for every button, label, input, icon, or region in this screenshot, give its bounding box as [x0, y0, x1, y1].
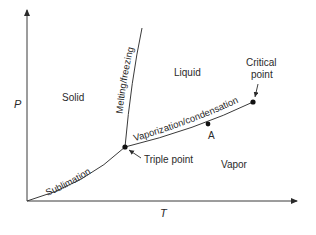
- critical-point-marker: [250, 99, 255, 104]
- vapor-region-label: Vapor: [221, 159, 248, 170]
- phase-diagram: P T Sublimation Vaporization/condensatio…: [0, 0, 316, 235]
- liquid-region-label: Liquid: [174, 67, 201, 78]
- critical-point-label-line1: Critical: [246, 57, 277, 68]
- sublimation-label: Sublimation: [44, 165, 93, 198]
- vaporization-label: Vaporization/condensation: [132, 94, 240, 143]
- triple-point-marker: [122, 144, 127, 149]
- triple-point-label: Triple point: [144, 154, 193, 165]
- critical-point-arrow: [255, 84, 258, 97]
- critical-point-label-line2: point: [251, 69, 273, 80]
- solid-region-label: Solid: [62, 92, 84, 103]
- triple-point-arrow: [129, 150, 141, 158]
- point-a-marker: [206, 122, 211, 127]
- y-axis-label: P: [14, 98, 22, 110]
- x-axis-label: T: [160, 207, 168, 219]
- point-a-label: A: [208, 130, 215, 141]
